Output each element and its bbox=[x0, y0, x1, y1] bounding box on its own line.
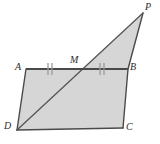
geometry-diagram bbox=[0, 0, 160, 144]
vertex-label-b: B bbox=[130, 62, 136, 72]
vertex-label-m: M bbox=[70, 55, 78, 65]
vertex-label-a: A bbox=[15, 62, 21, 72]
vertex-label-c: C bbox=[126, 122, 133, 132]
vertex-label-d: D bbox=[4, 121, 11, 131]
vertex-label-p: P bbox=[145, 2, 151, 12]
geometry-figure: P A M B C D bbox=[0, 0, 160, 144]
